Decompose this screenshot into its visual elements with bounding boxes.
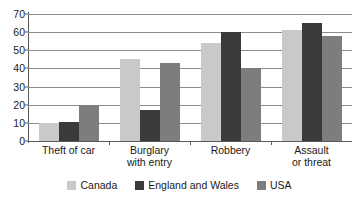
legend-item[interactable]: Canada — [67, 180, 117, 191]
bar — [120, 59, 140, 141]
y-axis-tick-label: 10 — [1, 118, 25, 129]
y-axis-tick-label: 40 — [1, 63, 25, 74]
bar — [160, 63, 180, 141]
bar — [241, 68, 261, 141]
bar — [221, 32, 241, 141]
x-axis-tick-label: Burglary with entry — [109, 145, 190, 168]
bar — [39, 123, 59, 141]
y-axis-tick-label: 50 — [1, 45, 25, 56]
x-axis-tick-labels: Theft of carBurglary with entryRobberyAs… — [28, 145, 352, 175]
legend-label: Canada — [80, 180, 117, 191]
bar-group — [190, 14, 271, 141]
legend-item[interactable]: USA — [257, 180, 292, 191]
bar — [302, 23, 322, 141]
x-axis-tick-label: Assault or threat — [271, 145, 352, 168]
bar — [322, 36, 342, 141]
y-axis-tick-label: 20 — [1, 99, 25, 110]
x-axis-tick-label: Theft of car — [28, 145, 109, 157]
plot-area — [28, 14, 352, 141]
chart-legend: CanadaEngland and WalesUSA — [0, 180, 359, 191]
bar-group — [28, 14, 109, 141]
y-axis-tick-label: 0 — [1, 136, 25, 147]
legend-label: USA — [270, 180, 292, 191]
y-axis-tick-label: 70 — [1, 9, 25, 20]
bar — [79, 105, 99, 141]
y-axis-tick-labels: 010203040506070 — [0, 14, 25, 141]
y-axis-tick-label: 30 — [1, 81, 25, 92]
x-axis-tick-mark — [190, 141, 191, 145]
bar-chart: 010203040506070 Theft of carBurglary wit… — [0, 0, 359, 204]
y-axis-tick-label: 60 — [1, 27, 25, 38]
x-axis-tick-mark — [271, 141, 272, 145]
legend-label: England and Wales — [148, 180, 239, 191]
legend-swatch-icon — [135, 181, 144, 190]
bar — [282, 30, 302, 141]
bar — [140, 110, 160, 141]
x-axis-tick-mark — [109, 141, 110, 145]
bar-group — [109, 14, 190, 141]
legend-item[interactable]: England and Wales — [135, 180, 239, 191]
legend-swatch-icon — [257, 181, 266, 190]
bar-group — [271, 14, 352, 141]
legend-swatch-icon — [67, 181, 76, 190]
bar — [59, 122, 79, 141]
x-axis-tick-label: Robbery — [190, 145, 271, 157]
bar — [201, 43, 221, 141]
